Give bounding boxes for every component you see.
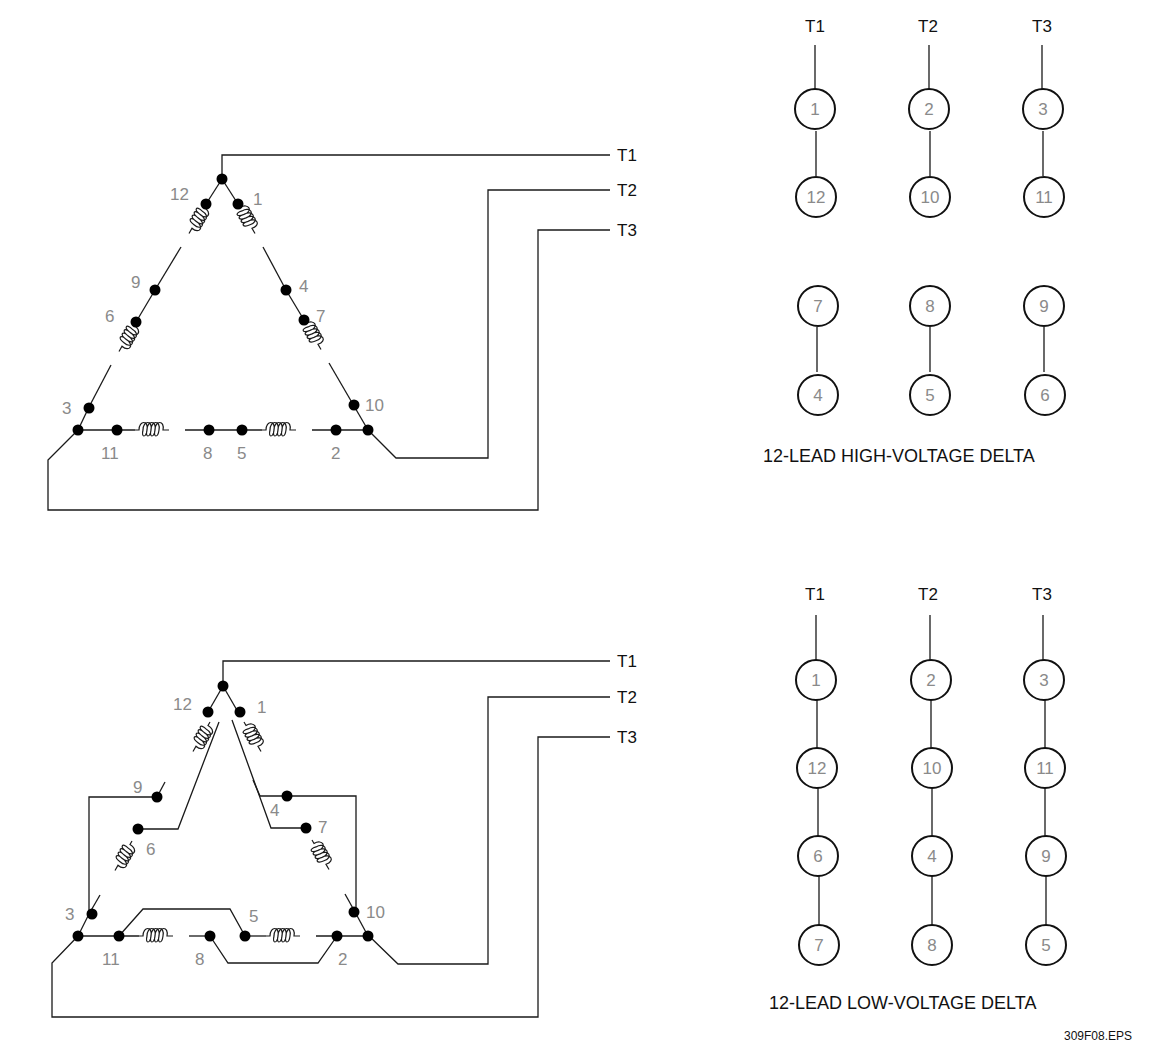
terminal-label: T3 [617, 221, 637, 240]
terminal-lead: 8 [927, 936, 936, 955]
high-voltage-connection-table: T1 T2 T3 1 2 3 12 10 11 7 8 9 4 5 [763, 17, 1065, 466]
low-voltage-delta-schematic: 12 1 9 4 6 7 3 10 11 8 5 2 T1 T2 T3 [52, 652, 637, 1017]
terminal-lead: 7 [813, 297, 822, 316]
lead-label: 2 [331, 444, 340, 463]
diagram-title: 12-LEAD LOW-VOLTAGE DELTA [769, 993, 1036, 1013]
terminal-lead: 7 [814, 936, 823, 955]
lead-label: 11 [102, 950, 120, 969]
lead-label: 3 [65, 905, 74, 924]
column-header: T3 [1032, 17, 1052, 36]
high-voltage-delta-schematic: 12 1 9 4 6 7 3 10 11 8 5 2 T1 T2 T3 [48, 146, 637, 510]
column-header: T2 [918, 585, 938, 604]
terminal-lead: 4 [927, 847, 936, 866]
terminal-lead: 3 [1039, 671, 1048, 690]
lead-label: 9 [131, 273, 140, 292]
terminal-lead: 9 [1039, 297, 1048, 316]
lead-label: 1 [253, 190, 262, 209]
apex-node [217, 174, 228, 185]
terminal-lead: 5 [925, 386, 934, 405]
lead-label: 9 [133, 778, 142, 797]
terminal-lead: 11 [1036, 759, 1054, 778]
lead-label: 4 [270, 801, 279, 820]
lead-label: 12 [170, 185, 189, 204]
lead-label: 3 [62, 399, 71, 418]
terminal-label: T1 [617, 146, 637, 165]
lead-label: 10 [365, 396, 384, 415]
diagram-title: 12-LEAD HIGH-VOLTAGE DELTA [763, 446, 1035, 466]
lead-label: 8 [203, 444, 212, 463]
figure-file-label: 309F08.EPS [1064, 1029, 1132, 1043]
lead-label: 11 [101, 444, 119, 463]
lead-label: 8 [195, 950, 204, 969]
terminal-lead: 9 [1041, 847, 1050, 866]
lead-label: 1 [257, 698, 266, 717]
terminal-lead: 2 [926, 671, 935, 690]
terminal-lead: 3 [1038, 100, 1047, 119]
column-header: T1 [805, 17, 825, 36]
column-header: T3 [1032, 585, 1052, 604]
terminal-label: T2 [617, 181, 637, 200]
lead-label: 5 [249, 907, 258, 926]
lead-label: 12 [173, 695, 192, 714]
terminal-label: T3 [617, 728, 637, 747]
column-header: T2 [918, 17, 938, 36]
terminal-lead: 10 [921, 188, 940, 207]
terminal-lead: 6 [1040, 386, 1049, 405]
lead-label: 7 [318, 818, 327, 837]
lead-label: 5 [237, 444, 246, 463]
lead-label: 6 [146, 840, 155, 859]
terminal-lead: 12 [808, 759, 827, 778]
terminal-lead: 5 [1041, 936, 1050, 955]
lead-label: 2 [338, 950, 347, 969]
terminal-lead: 8 [925, 297, 934, 316]
terminal-lead: 6 [813, 847, 822, 866]
lead-label: 7 [316, 307, 325, 326]
terminal-lead: 10 [923, 759, 942, 778]
terminal-lead: 12 [807, 188, 826, 207]
terminal-lead: 4 [813, 386, 822, 405]
terminal-label: T2 [617, 688, 637, 707]
terminal-lead: 1 [811, 671, 820, 690]
delta-wiring-diagram: 12 1 9 4 6 7 3 10 11 8 5 2 T1 T2 T3 T1 T… [0, 0, 1166, 1062]
terminal-label: T1 [617, 652, 637, 671]
terminal-lead: 2 [924, 100, 933, 119]
column-header: T1 [805, 585, 825, 604]
lead-label: 4 [299, 277, 308, 296]
lead-label: 6 [105, 307, 114, 326]
lead-label: 10 [366, 903, 385, 922]
terminal-lead: 1 [810, 100, 819, 119]
low-voltage-connection-table: T1 T2 T3 1 2 3 12 10 11 6 4 [769, 585, 1066, 1013]
terminal-lead: 11 [1035, 188, 1053, 207]
